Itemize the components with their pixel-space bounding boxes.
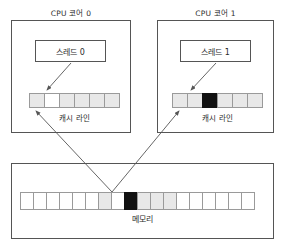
memory-label: 메모리: [11, 213, 274, 224]
memory-cell-0: [20, 192, 34, 210]
cache-line-1-cells: [172, 93, 263, 108]
cache-line-1-label: 캐시 라인: [172, 112, 263, 123]
cache-line-1-cell-4: [232, 93, 248, 108]
cpu-core-1-title: CPU 코어 1: [157, 7, 274, 18]
cache-line-1-cell-5: [247, 93, 263, 108]
memory-cell-3: [59, 192, 73, 210]
memory-cell-12: [176, 192, 190, 210]
cache-line-1-cell-1: [187, 93, 203, 108]
memory-cell-14: [202, 192, 216, 210]
cache-line-1-cell-3: [217, 93, 233, 108]
cache-line-1-cell-2: [202, 93, 218, 108]
memory-cell-1: [33, 192, 47, 210]
memory-cell-15: [215, 192, 229, 210]
false-sharing-diagram: CPU 코어 0 스레드 0 캐시 라인 CPU 코어 1 스레드 1 캐시 라…: [0, 0, 285, 247]
cpu-core-0-title: CPU 코어 0: [11, 7, 131, 18]
cache-line-0-cell-1: [44, 93, 60, 108]
memory-cell-8: [124, 192, 138, 210]
memory-cell-11: [163, 192, 177, 210]
memory-cell-5: [85, 192, 99, 210]
cache-line-0-cell-0: [29, 93, 45, 108]
memory-cell-7: [111, 192, 125, 210]
memory-cell-13: [189, 192, 203, 210]
memory-cells: [20, 192, 255, 210]
memory-cell-4: [72, 192, 86, 210]
thread-1-box: 스레드 1: [180, 40, 251, 62]
memory-cell-9: [137, 192, 151, 210]
memory-cell-6: [98, 192, 112, 210]
memory-cell-2: [46, 192, 60, 210]
memory-cell-10: [150, 192, 164, 210]
cache-line-0-cells: [29, 93, 120, 108]
cache-line-0-cell-4: [89, 93, 105, 108]
cache-line-0-cell-3: [74, 93, 90, 108]
cache-line-0-cell-2: [59, 93, 75, 108]
memory-cell-17: [241, 192, 255, 210]
cache-line-0-cell-5: [104, 93, 120, 108]
thread-0-box: 스레드 0: [35, 40, 106, 62]
cache-line-1-cell-0: [172, 93, 188, 108]
thread-0-label: 스레드 0: [56, 46, 85, 57]
cache-line-0-label: 캐시 라인: [29, 112, 120, 123]
memory-cell-16: [228, 192, 242, 210]
thread-1-label: 스레드 1: [201, 46, 230, 57]
